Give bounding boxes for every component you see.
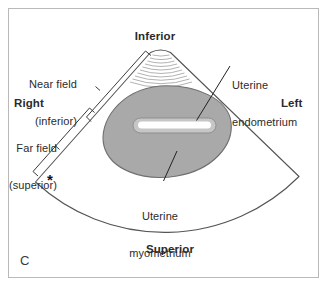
uterine-myometrium-label: Uterine myometrium — [129, 185, 191, 284]
panel-letter: C — [20, 254, 30, 269]
far-field-label-line1: Far field — [9, 142, 57, 154]
myometrium-label-line1: Uterine — [129, 210, 191, 222]
endometrium-label-line1: Uterine — [232, 79, 297, 91]
uterine-endometrium-label: Uterine endometrium — [232, 54, 297, 153]
endometrium-stripe — [138, 122, 211, 129]
asterisk-marker: * — [47, 172, 53, 189]
ultrasound-schematic-figure: Inferior Superior Right Left Near field … — [0, 0, 329, 288]
uterine-endometrium-shape — [133, 118, 216, 133]
far-field-label: Far field (superior) — [9, 117, 57, 216]
endometrium-label-line2: endometrium — [232, 116, 297, 128]
near-field-label-line1: Near field — [29, 78, 77, 90]
myometrium-label-line2: myometrium — [129, 247, 191, 259]
orientation-label-inferior: Inferior — [135, 30, 175, 43]
